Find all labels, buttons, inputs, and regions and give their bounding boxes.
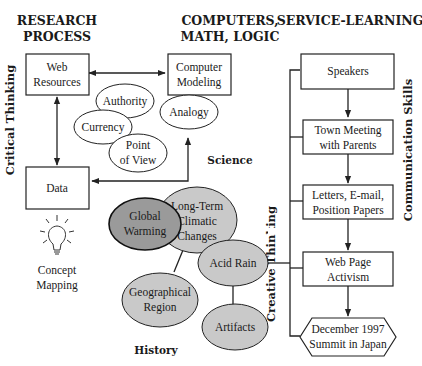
concept-mapping-line1: Concept (38, 264, 77, 277)
node-letters-email: Letters, E-mail, Position Papers (303, 185, 393, 219)
side-label-communication-skills: Communication Skills (401, 79, 415, 221)
authority-label: Authority (103, 95, 148, 108)
summit-line1: December 1997 (311, 323, 384, 335)
node-analogy: Analogy (160, 95, 218, 129)
header-research-process: RESEARCH PROCESS (17, 13, 98, 44)
artifacts-label: Artifacts (215, 321, 256, 333)
header-computers-math-logic: COMPUTERS, MATH, LOGIC (181, 13, 280, 44)
section-label-science: Science (207, 154, 253, 166)
long-term-line1: Long-Term (171, 200, 223, 213)
letters-line2: Position Papers (312, 204, 384, 217)
web-page-line2: Activism (327, 271, 369, 283)
geographical-region-line2: Region (143, 301, 176, 314)
node-speakers: Speakers (301, 54, 394, 89)
acid-rain-label: Acid Rain (210, 257, 257, 269)
long-term-line2: Climatic (177, 215, 217, 227)
node-global-warming: Global Warming (109, 198, 181, 250)
concept-map-diagram: RESEARCH PROCESS COMPUTERS, MATH, LOGIC … (0, 0, 422, 366)
node-december-summit: December 1997 Summit in Japan (300, 318, 396, 356)
concept-mapping-line2: Mapping (36, 279, 78, 292)
town-meeting-line2: with Parents (319, 139, 377, 151)
data-label: Data (46, 182, 68, 194)
currency-label: Currency (82, 121, 125, 134)
node-artifacts: Artifacts (202, 304, 268, 350)
header-research-line1: RESEARCH (17, 13, 98, 28)
long-term-line3: Changes (177, 230, 217, 243)
header-computers-line2: MATH, LOGIC (181, 29, 280, 44)
header-service-learning: SERVICE-LEARNING (277, 13, 422, 28)
computer-modeling-line2: Modeling (177, 76, 222, 89)
node-acid-rain: Acid Rain (198, 240, 268, 286)
web-resources-line1: Web (47, 61, 68, 73)
header-computers-line1: COMPUTERS, (181, 13, 278, 28)
node-web-resources: Web Resources (26, 54, 89, 95)
summit-line2: Summit in Japan (309, 338, 387, 351)
node-data: Data (26, 167, 89, 209)
side-label-critical-thinking: Critical Thinking (3, 65, 17, 175)
web-page-line1: Web Page (325, 256, 371, 269)
node-point-of-view: Point of View (109, 134, 167, 172)
point-of-view-line1: Point (126, 139, 151, 151)
global-warming-line1: Global (129, 210, 160, 222)
node-computer-modeling: Computer Modeling (168, 54, 231, 95)
global-warming-line2: Warming (124, 225, 167, 238)
header-research-line2: PROCESS (23, 29, 91, 44)
node-web-page-activism: Web Page Activism (303, 252, 393, 286)
web-resources-line2: Resources (33, 76, 81, 88)
town-meeting-line1: Town Meeting (314, 124, 381, 137)
node-town-meeting: Town Meeting with Parents (303, 120, 393, 154)
point-of-view-line2: of View (120, 154, 157, 166)
creative-thinking-gap (268, 228, 280, 234)
node-geographical-region: Geographical Region (122, 273, 198, 327)
computer-modeling-line1: Computer (176, 61, 222, 74)
service-spine (290, 70, 300, 336)
geographical-region-line1: Geographical (129, 286, 191, 299)
connector-longterm-geographical (174, 250, 183, 272)
section-label-history: History (134, 344, 178, 356)
analogy-label: Analogy (169, 106, 209, 119)
lightbulb-icon (40, 215, 74, 254)
letters-line1: Letters, E-mail, (312, 189, 384, 202)
speakers-label: Speakers (327, 65, 369, 78)
